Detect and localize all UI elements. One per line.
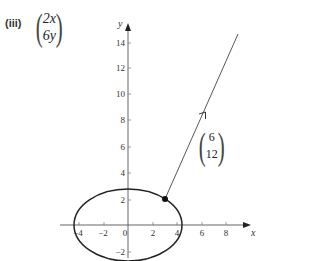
right-paren: ) (218, 127, 225, 165)
point-on-ellipse (162, 196, 168, 202)
svg-text:12: 12 (116, 63, 125, 73)
svg-text:4: 4 (121, 168, 126, 178)
svg-text:−2: −2 (98, 228, 108, 238)
y-axis-arrow-icon (125, 23, 131, 31)
y-tick-labels: 14 12 10 8 6 4 2 −2 (115, 38, 125, 257)
normal-vector-line (165, 34, 238, 199)
svg-text:2: 2 (151, 228, 156, 238)
svg-text:−2: −2 (115, 247, 125, 257)
svg-text:8: 8 (224, 228, 229, 238)
y-axis-label: y (117, 18, 123, 29)
vector-annotation: ( 6 12 ) (196, 127, 227, 165)
vector-annotation-components: 6 12 (206, 129, 218, 163)
svg-text:6: 6 (200, 228, 205, 238)
x-axis-label: x (250, 227, 256, 238)
vector-annotation-top: 6 (209, 129, 215, 146)
svg-text:2: 2 (121, 195, 126, 205)
left-paren: ( (199, 127, 206, 165)
svg-text:14: 14 (116, 38, 126, 48)
svg-text:0: 0 (123, 228, 128, 238)
svg-text:8: 8 (121, 115, 126, 125)
svg-text:10: 10 (116, 89, 126, 99)
x-tick-labels: −4 −2 0 2 4 6 8 (73, 228, 229, 238)
vector-annotation-bottom: 12 (206, 146, 218, 163)
svg-text:6: 6 (121, 142, 126, 152)
x-axis-arrow-icon (243, 222, 251, 228)
